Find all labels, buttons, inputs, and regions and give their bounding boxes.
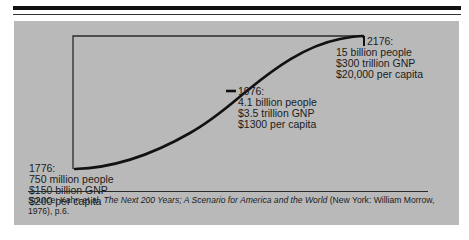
annotation-1976-per-capita: $1300 per capita bbox=[238, 119, 317, 130]
source-citation: Source: Kahn et al. The Next 200 Years; … bbox=[28, 195, 438, 217]
chart-frame bbox=[73, 36, 363, 169]
annotation-2176-details: 15 billion people $300 trillion GNP $20,… bbox=[336, 47, 423, 80]
growth-curve bbox=[75, 36, 363, 169]
annotation-1976: 1976: 4.1 billion people $3.5 trillion G… bbox=[238, 86, 317, 130]
source-divider bbox=[28, 191, 428, 192]
annotation-2176-per-capita: $20,000 per capita bbox=[336, 69, 423, 80]
source-title: The Next 200 Years; A Scenario for Ameri… bbox=[103, 195, 327, 205]
source-prefix: Source: Kahn et al. bbox=[28, 195, 103, 205]
